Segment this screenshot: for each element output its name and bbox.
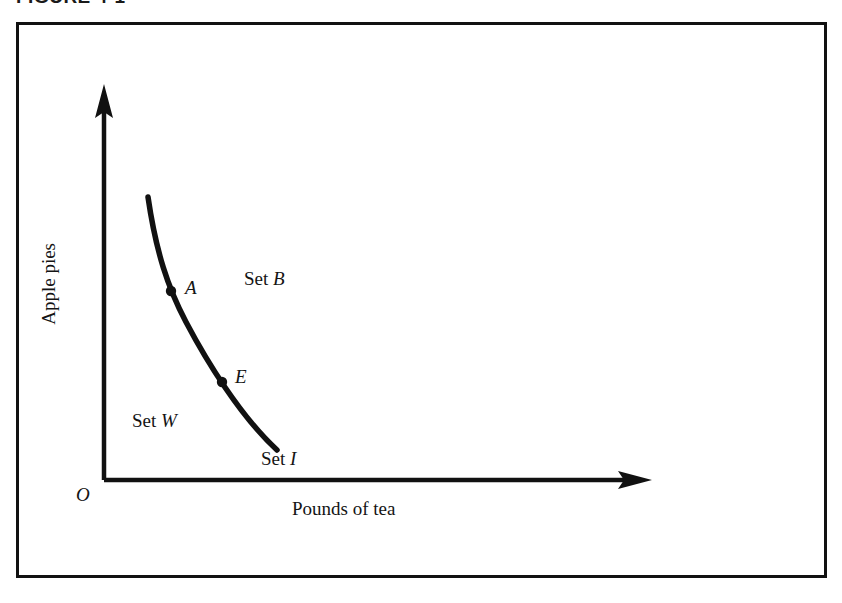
- set-b-label: Set B: [244, 268, 285, 290]
- set-w-symbol: W: [161, 410, 177, 431]
- point-e-label: E: [235, 366, 247, 388]
- point-a-label: A: [185, 277, 197, 299]
- point-e-marker: [217, 377, 227, 387]
- origin-label: O: [76, 484, 90, 506]
- y-axis-label: Apple pies: [38, 243, 60, 325]
- set-i-prefix: Set: [261, 448, 290, 469]
- set-w-label: Set W: [132, 410, 177, 432]
- set-b-prefix: Set: [244, 268, 273, 289]
- set-b-symbol: B: [273, 268, 285, 289]
- figure-page: FIGURE 4-1 Apple pies Pounds of tea O A …: [0, 0, 842, 603]
- point-a-marker: [166, 286, 176, 296]
- x-axis-label: Pounds of tea: [292, 498, 395, 520]
- plot-area: [0, 0, 842, 603]
- set-i-symbol: I: [290, 448, 296, 469]
- set-w-prefix: Set: [132, 410, 161, 431]
- set-i-label: Set I: [261, 448, 296, 470]
